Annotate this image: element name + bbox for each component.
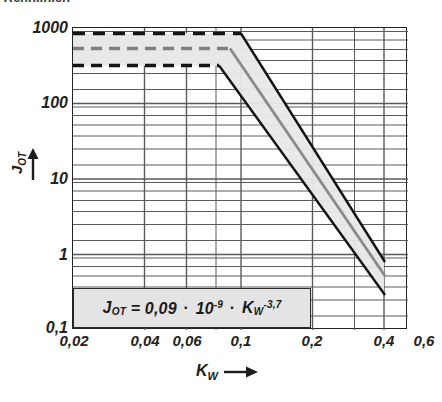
y-axis-title: JOT <box>6 148 66 208</box>
formula-variable-subscript: W <box>254 306 264 317</box>
x-axis-title-label: KW <box>196 362 218 382</box>
formula-variable: K <box>242 299 254 316</box>
formula-dot-2: · <box>228 299 238 316</box>
x-tick-0p04: 0,04 <box>130 332 159 349</box>
x-axis-title: KW <box>196 360 258 384</box>
log-log-chart-figure: 1000 100 10 1 0,1 JOT <box>0 0 442 402</box>
x-tick-0p6: 0,6 <box>414 332 435 349</box>
formula-power-ten-base: 10 <box>196 299 214 316</box>
x-axis-tick-labels: 0,02 0,04 0,06 0,1 0,2 0,4 0,6 <box>0 332 442 358</box>
plot-graphics <box>73 28 408 330</box>
x-tick-0p02: 0,02 <box>59 332 88 349</box>
formula-lhs-subscript: OT <box>112 306 126 317</box>
formula-annotation-box: JOT = 0,09 · 10-9 · KW-3,7 <box>73 288 311 328</box>
x-tick-0p1: 0,1 <box>231 332 252 349</box>
y-tick-100: 100 <box>6 95 68 111</box>
x-tick-0p06: 0,06 <box>172 332 201 349</box>
formula-equals: = <box>131 299 141 316</box>
x-tick-0p4: 0,4 <box>374 332 395 349</box>
formula-coefficient: 0,09 <box>145 299 177 316</box>
y-tick-1: 1 <box>6 247 68 263</box>
scatter-band-fill <box>73 34 384 295</box>
formula-annotation-text: JOT = 0,09 · 10-9 · KW-3,7 <box>103 299 282 318</box>
formula-variable-exponent: -3,7 <box>263 299 281 310</box>
arrow-right-icon <box>224 365 258 379</box>
formula-power-ten-exponent: -9 <box>214 299 223 310</box>
formula-lhs: J <box>103 299 112 316</box>
y-tick-1000: 1000 <box>6 20 68 36</box>
lower-bound-slope <box>219 66 385 296</box>
y-axis-title-label: JOT <box>8 152 28 174</box>
x-tick-0p2: 0,2 <box>302 332 323 349</box>
plot-area <box>72 27 407 329</box>
formula-dot-1: · <box>181 299 191 316</box>
mean-curve-slope <box>230 49 385 277</box>
arrow-up-icon <box>26 148 40 180</box>
